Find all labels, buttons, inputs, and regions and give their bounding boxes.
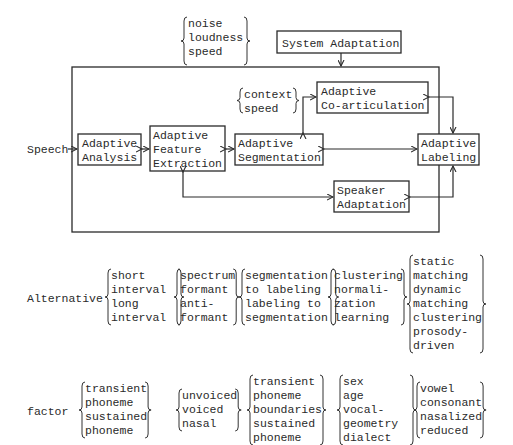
factor-text: nasal [182,417,217,430]
box-text: Extraction [153,157,222,170]
factor-text: sex [343,375,364,388]
condition-text: speed [188,45,223,58]
option-text: zation [334,297,375,310]
option-text: clustering [413,311,482,324]
factor-text: dialect [343,431,391,444]
factor-groups: transient phonemesustained phonemeunvoic… [79,375,486,445]
option-text: dynamic [413,283,461,296]
box-text: Adaptive [421,137,476,150]
option-text: to labeling [245,283,321,296]
option-text: matching [413,297,468,310]
factor-text: consonant [420,396,482,409]
option-text: short [111,269,146,282]
alternative-group: spectrumformantanti- formant [174,269,239,325]
factor-text: vowel [420,382,455,395]
factor-text: boundaries [253,403,322,416]
adaptive-labeling-label: AdaptiveLabeling [421,137,476,164]
factor-text: phoneme [85,396,133,409]
factor-label: factor [27,405,68,418]
box-text: Feature [153,143,201,156]
factor-text: phoneme [253,389,301,402]
factor-text: sustained [253,417,315,430]
factor-text: transient [253,375,315,388]
option-text: matching [413,269,468,282]
option-text: long [111,297,139,310]
option-text: interval [111,283,166,296]
option-text: driven [413,339,454,352]
factor-text: vocal- [343,403,384,416]
condition-text: speed [244,102,279,115]
condition-text: loudness [188,31,243,44]
factor-group: transient phonemesustained phoneme [79,382,151,438]
box-text: Adaptation [337,198,406,211]
box-text: Analysis [82,151,137,164]
box-text: Adaptive [321,85,376,98]
factor-text: nasalized [420,410,482,423]
alternative-group: clusteringnormali- zationlearning [328,269,407,325]
speech-input-label: Speech [27,143,68,156]
factor-group: transient phonemeboundaries sustained ph… [247,375,326,445]
factor-text: phoneme [253,431,301,444]
option-text: spectrum [180,269,235,282]
box-text: Adaptive [153,129,208,142]
box-text: Adaptive [82,137,137,150]
alternative-groups: short intervallong intervalspectrumforma… [105,255,486,353]
alternative-label: Alternative [27,292,103,305]
alternative-group: segmentation to labelinglabeling to segm… [239,269,339,325]
factor-text: transient [85,382,147,395]
system-adaptation-label: System Adaptation [282,37,399,50]
box-text: Segmentation [238,151,321,164]
condition-text: context [244,88,292,101]
factor-text: sustained [85,410,147,423]
factor-text: phoneme [85,424,133,437]
option-text: formant [180,283,228,296]
option-text: learning [334,311,389,324]
option-text: segmentation [245,269,328,282]
factor-group: sexagevocal- geometrydialect [337,375,416,445]
right-brace [480,255,486,353]
box-text: Labeling [421,151,476,164]
left-brace [181,17,187,65]
alternative-group: short intervallong interval [105,269,184,325]
option-text: prosody- [413,325,468,338]
factor-text: geometry [343,417,398,430]
box-text: Speaker [337,184,385,197]
factor-text: unvoiced [182,389,237,402]
option-text: static [413,255,455,268]
top-conditions-group: noiseloudnessspeed [181,17,250,65]
alternative-group: static matchingdynamic matchingclusterin… [407,255,486,353]
option-text: interval [111,311,166,324]
option-text: segmentation [245,311,328,324]
factor-group: unvoicedvoicednasal [176,389,241,431]
option-text: clustering [334,269,403,282]
factor-text: voiced [182,403,223,416]
option-text: anti- [180,297,215,310]
adaptive-speech-diagram: noiseloudnessspeed System Adaptation con… [0,0,513,445]
right-brace [244,17,250,65]
box-text: Co-articulation [321,99,425,112]
option-text: normali- [334,283,389,296]
box-text: Adaptive [238,137,293,150]
adaptive-analysis-label: AdaptiveAnalysis [82,137,137,164]
condition-text: noise [188,17,223,30]
option-text: formant [180,311,228,324]
factor-text: age [343,389,364,402]
factor-group: vowelconsonantnasalizedreduced [414,382,486,438]
factor-text: reduced [420,424,468,437]
option-text: labeling to [245,297,321,310]
